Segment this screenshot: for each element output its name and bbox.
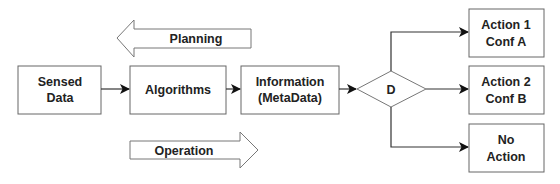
edge-decision-to-no-action [391,107,468,147]
node-no-action: No Action [469,124,544,172]
no-action-line2: Action [487,150,526,164]
action1-line2: Conf A [486,35,527,49]
planning-label: Planning [170,32,223,46]
sensed-data-line1: Sensed [38,75,82,89]
action2-line2: Conf B [486,92,527,106]
node-decision: D [357,71,426,107]
information-line2: (MetaData) [258,91,322,105]
node-action1: Action 1 Conf A [469,9,544,57]
edge-decision-to-action1 [391,32,468,71]
action2-line1: Action 2 [481,75,530,89]
operation-label: Operation [154,144,213,158]
decision-label: D [386,83,395,97]
no-action-line1: No [498,133,515,147]
node-sensed-data: Sensed Data [18,66,101,114]
node-algorithms: Algorithms [130,66,226,114]
node-information: Information (MetaData) [241,66,339,114]
planning-arrow: Planning [117,20,251,57]
action1-line1: Action 1 [481,18,530,32]
flow-diagram: Planning Operation Sensed Data Algorithm… [0,0,560,184]
node-action2: Action 2 Conf B [469,66,544,114]
algorithms-label: Algorithms [145,83,211,97]
sensed-data-line2: Data [46,91,74,105]
information-line1: Information [256,75,325,89]
operation-arrow: Operation [130,132,258,168]
